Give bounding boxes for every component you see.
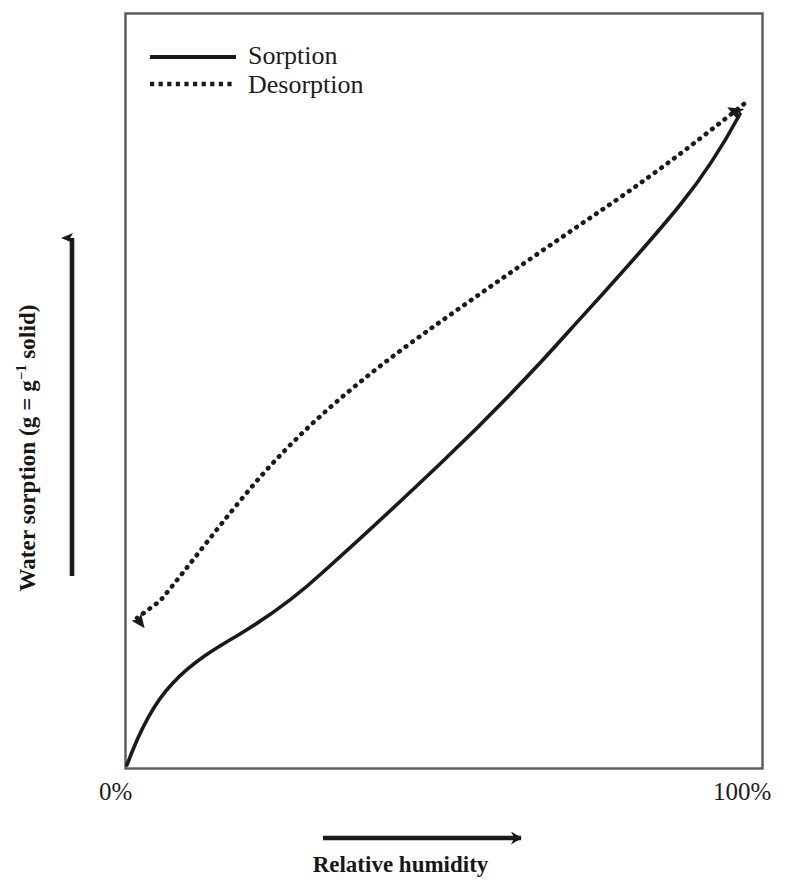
legend-label-sorption: Sorption [248,41,338,71]
chart-canvas [0,0,801,895]
y-axis-title: Water sorption (g = g−1 solid) [0,0,56,895]
x-axis-title: Relative humidity [0,852,801,878]
x-tick-label-0: 0% [99,778,132,806]
sorption-curve [127,114,740,765]
y-axis-title-text: Water sorption (g = g−1 solid) [15,304,41,591]
sorption-isotherm-figure: Water sorption (g = g−1 solid) Relative … [0,0,801,895]
desorption-curve [137,104,744,618]
plot-frame [126,14,763,769]
x-tick-label-100: 100% [713,778,771,806]
legend-label-desorption: Desorption [248,70,364,100]
